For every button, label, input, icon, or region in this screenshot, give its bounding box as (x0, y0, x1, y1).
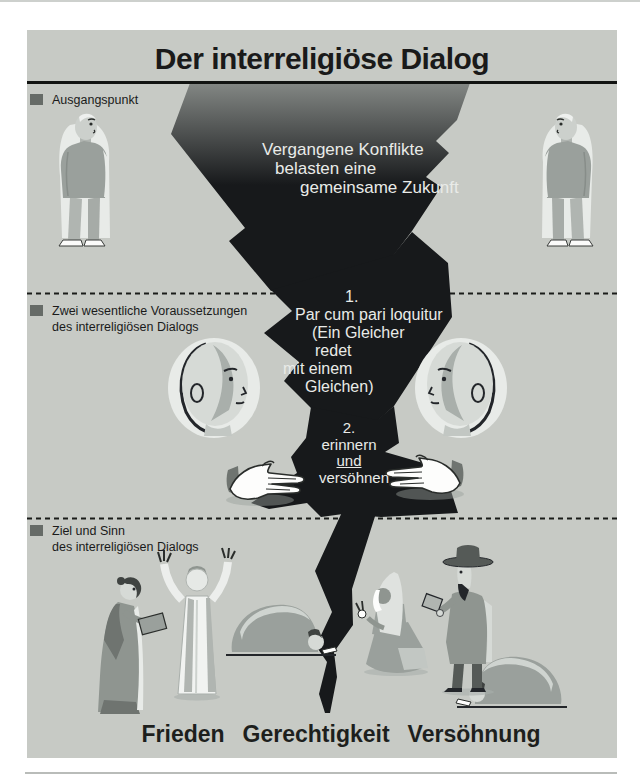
premise-2-line: versöhnen (317, 470, 391, 487)
goal-word-frieden: Frieden (142, 721, 225, 747)
section-3-label: Ziel und Sinn des interreligiösen Dialog… (30, 523, 199, 555)
page: Der interreligiöse Dialog Ausgangspunkt … (0, 0, 640, 784)
standing-person-right-icon (542, 114, 593, 246)
section-3-title-line1: Ziel und Sinn (52, 523, 199, 539)
reaching-hand-left-icon (226, 461, 304, 506)
section-1-label: Ausgangspunkt (30, 92, 138, 108)
premise-2-line-underlined: und (307, 453, 391, 470)
goal-word-versoehnung: Versöhnung (408, 721, 541, 747)
head-profile-left-icon (168, 338, 260, 438)
premise-1-line: mit einem (283, 360, 443, 378)
priest-arms-raised-icon (158, 548, 235, 701)
premise-1: 1. Par cum pari loquitur (Ein Gleicher r… (283, 288, 443, 396)
premise-1-line: Gleichen) (305, 378, 443, 396)
section-2-title-line2: des interreligiösen Dialogs (52, 319, 247, 335)
premise-2: 2. erinnern und versöhnen (307, 420, 391, 486)
section-marker-icon (30, 305, 43, 316)
page-title: Der interreligiöse Dialog (27, 42, 617, 76)
section-marker-icon (30, 525, 43, 536)
section-2-label: Zwei wesentliche Voraussetzungen des int… (30, 303, 247, 335)
goal-word-gerechtigkeit: Gerechtigkeit (243, 721, 390, 747)
premise-1-line: Par cum pari loquitur (295, 306, 443, 324)
section-3-title-line2: des interreligiösen Dialogs (52, 539, 199, 555)
standing-person-left-icon (59, 114, 110, 246)
page-top-edge (0, 0, 640, 2)
section-marker-icon (30, 94, 43, 105)
statement-line: belasten eine (275, 159, 459, 178)
section-1-title: Ausgangspunkt (52, 92, 138, 108)
statement-line: gemeinsame Zukunft (300, 178, 459, 197)
premise-1-number: 1. (345, 288, 443, 306)
goal-words: FriedenGerechtigkeitVersöhnung (27, 719, 617, 749)
diagram-panel: Der interreligiöse Dialog Ausgangspunkt … (27, 30, 617, 758)
premise-2-line: erinnern (307, 437, 391, 454)
premise-1-line: (Ein Gleicher (312, 324, 443, 342)
woman-with-book-icon (98, 577, 167, 714)
page-bottom-edge (25, 772, 617, 774)
premise-2-number: 2. (307, 420, 391, 437)
kneeling-nun-icon (356, 572, 428, 676)
premise-1-line: redet (315, 342, 443, 360)
statement-line: Vergangene Konflikte (262, 140, 459, 159)
title-rule (27, 81, 617, 84)
prostrating-person-left-icon (226, 605, 337, 655)
conflict-statement: Vergangene Konflikte belasten eine gemei… (262, 140, 459, 197)
section-2-title-line1: Zwei wesentliche Voraussetzungen (52, 303, 247, 319)
